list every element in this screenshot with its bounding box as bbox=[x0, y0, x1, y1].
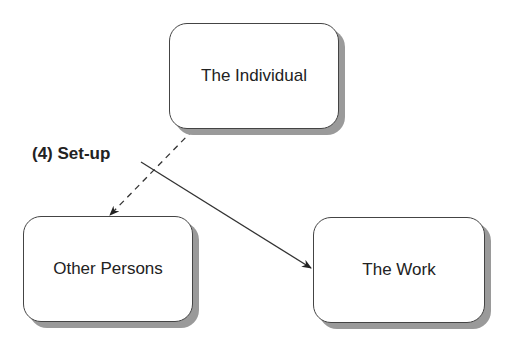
node-label: Other Persons bbox=[53, 259, 163, 279]
node-other-persons: Other Persons bbox=[23, 216, 193, 322]
setup-annotation: (4) Set-up bbox=[32, 144, 110, 164]
dashed-bidirectional-arrow bbox=[110, 130, 193, 215]
node-label: The Individual bbox=[201, 66, 307, 86]
node-the-individual: The Individual bbox=[169, 23, 339, 129]
node-label: The Work bbox=[362, 260, 435, 280]
node-the-work: The Work bbox=[313, 217, 485, 323]
